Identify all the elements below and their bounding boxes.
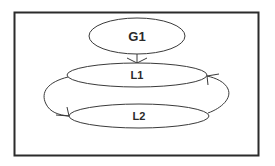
edge-l1-to-l2 [44, 77, 69, 116]
edge-l2-l1-curve [207, 76, 229, 113]
node-g1[interactable]: G1 [89, 18, 185, 54]
node-g1-label: G1 [128, 29, 145, 44]
edge-l2-to-l1 [207, 74, 229, 113]
node-l2-label: L2 [133, 110, 146, 122]
node-l2[interactable]: L2 [69, 104, 209, 128]
edge-l1-l2-curve [44, 77, 69, 116]
node-l1-label: L1 [131, 69, 144, 81]
diagram-canvas: G1 L1 L2 [0, 0, 275, 166]
node-l1[interactable]: L1 [67, 63, 207, 87]
edge-g1-to-l1 [127, 54, 147, 63]
